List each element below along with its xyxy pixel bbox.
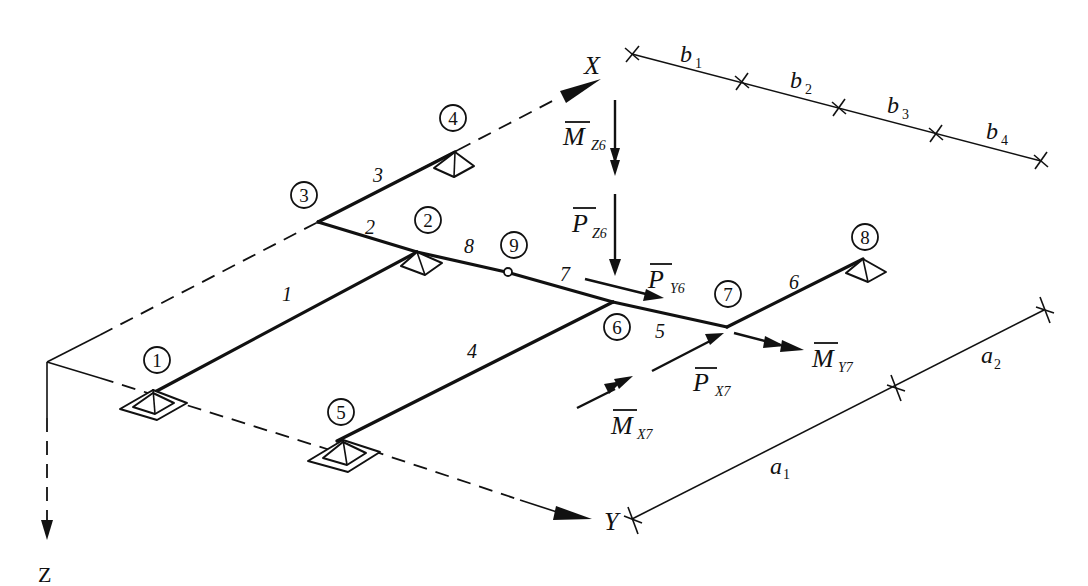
node-label-7: 7	[723, 284, 733, 305]
svg-text:X7: X7	[714, 384, 732, 399]
svg-text:Y6: Y6	[670, 281, 685, 296]
svg-text:a: a	[981, 342, 993, 368]
svg-text:2: 2	[994, 357, 1001, 372]
load-label-py6: P Y6	[647, 264, 685, 296]
x-axis-solid-segment	[47, 335, 100, 362]
svg-text:P: P	[571, 209, 588, 238]
node-labels: 1 2 3 4 5 6 7 8	[144, 105, 878, 425]
force-pz6-arrow	[609, 194, 621, 276]
svg-text:2: 2	[805, 82, 812, 97]
x-axis-dashed-extension	[458, 97, 560, 150]
member-label-5: 5	[655, 320, 665, 342]
pinned-support-node-4	[434, 152, 474, 177]
dim-label-b2: b 2	[790, 67, 812, 97]
member-label-1: 1	[282, 283, 292, 305]
svg-text:P: P	[647, 265, 664, 294]
member-label-8: 8	[464, 235, 474, 257]
svg-text:3: 3	[902, 107, 909, 122]
svg-text:P: P	[692, 368, 709, 397]
svg-text:M: M	[811, 344, 835, 373]
moment-mx7-arrow	[577, 376, 633, 408]
svg-text:b: b	[986, 118, 998, 144]
member-label-7: 7	[560, 263, 571, 285]
node-7: 7	[715, 281, 741, 307]
node-label-8: 8	[860, 227, 870, 248]
y-axis-solid-end	[520, 500, 560, 513]
member-label-4: 4	[467, 340, 477, 362]
member-label-2: 2	[365, 216, 375, 238]
svg-text:Z6: Z6	[592, 226, 607, 241]
y-axis-solid-segment	[47, 362, 100, 378]
dim-label-a1: a 1	[770, 453, 790, 482]
dimension-a-line: a 1 a 2	[624, 297, 1054, 534]
node-1: 1	[144, 347, 170, 373]
node-label-6: 6	[612, 317, 622, 338]
node-8: 8	[852, 224, 878, 250]
pinned-support-node-8	[846, 259, 886, 282]
svg-text:1: 1	[783, 467, 790, 482]
svg-text:M: M	[562, 122, 586, 151]
node-5: 5	[328, 399, 354, 425]
node-2: 2	[415, 207, 441, 233]
svg-text:M: M	[610, 411, 634, 440]
node-4: 4	[440, 105, 466, 131]
node-label-9: 9	[509, 235, 519, 256]
node-label-4: 4	[448, 108, 458, 129]
svg-text:1: 1	[695, 56, 702, 71]
load-label-my7: M Y7	[811, 343, 854, 375]
svg-text:X7: X7	[636, 427, 654, 442]
dim-label-b4: b 4	[986, 118, 1008, 148]
moment-my7-arrow	[734, 333, 804, 352]
svg-text:Y7: Y7	[838, 360, 854, 375]
z-axis-arrowhead	[41, 520, 53, 540]
moment-mz6-arrow	[610, 100, 620, 176]
members	[153, 150, 863, 441]
node-label-5: 5	[336, 402, 346, 423]
dimension-b-line: b 1 b 2 b 3 b 4	[625, 41, 1048, 169]
diagram-svg: Z X Y 1 2 3 4 5 6 7 8	[0, 0, 1088, 586]
y-axis-arrowhead	[553, 506, 592, 520]
node-6: 6	[604, 314, 630, 340]
y-axis-dashed-extension	[370, 450, 520, 500]
z-axis-label: Z	[38, 562, 51, 586]
svg-text:b: b	[887, 92, 899, 118]
x-axis-arrowhead	[560, 79, 601, 103]
supports	[120, 152, 886, 472]
node-label-1: 1	[152, 350, 162, 371]
svg-text:Z6: Z6	[591, 138, 606, 153]
member-1	[153, 252, 417, 393]
x-axis-dashed-segment	[100, 222, 318, 335]
y-axis-label: Y	[604, 507, 621, 536]
load-label-mx7: M X7	[610, 410, 654, 442]
hinge-node-9	[504, 268, 512, 276]
member-4	[337, 302, 613, 441]
node-3: 3	[291, 182, 317, 208]
svg-text:4: 4	[1001, 133, 1008, 148]
svg-text:a: a	[770, 453, 782, 479]
loads: M Z6 P Z6 P Y6 M	[562, 100, 854, 442]
fixed-support-node-1	[120, 389, 187, 420]
load-label-mz6: M Z6	[562, 122, 606, 153]
svg-text:b: b	[680, 41, 692, 67]
member-label-6: 6	[789, 271, 799, 293]
node-label-2: 2	[423, 210, 433, 231]
fixed-support-node-5	[308, 440, 380, 472]
svg-text:b: b	[790, 67, 802, 93]
dim-label-b3: b 3	[887, 92, 909, 122]
dim-label-a2: a 2	[981, 342, 1001, 372]
coordinate-axes: Z X Y	[38, 51, 621, 586]
load-label-px7: P X7	[692, 368, 732, 399]
load-label-pz6: P Z6	[571, 208, 607, 241]
x-axis-label: X	[583, 51, 601, 80]
node-label-3: 3	[299, 185, 309, 206]
dim-label-b1: b 1	[680, 41, 702, 71]
member-6	[727, 259, 863, 327]
member-labels: 1 2 3 4 5 6 7 8	[282, 164, 799, 362]
space-frame-diagram: Z X Y 1 2 3 4 5 6 7 8	[0, 0, 1088, 586]
node-9: 9	[501, 232, 527, 258]
member-label-3: 3	[372, 164, 383, 186]
